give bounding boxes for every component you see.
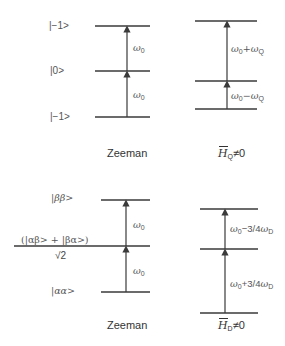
- dipolar-title: HD≠0: [218, 319, 245, 332]
- top-zeeman-levels: [95, 26, 150, 117]
- bottom-zeeman-levels: [14, 200, 150, 292]
- hamiltonian-symbol: H: [218, 147, 228, 160]
- hamiltonian-symbol: H: [218, 319, 228, 332]
- quadrupole-title: HQ≠0: [218, 147, 245, 160]
- state-label-middle: |0>: [50, 66, 64, 76]
- transition-label: ω0−3/4ωD: [230, 224, 273, 237]
- transition-label: ω0: [133, 43, 145, 56]
- state-label-lower: |αα>: [51, 286, 75, 296]
- transition-label: ω0: [133, 266, 145, 279]
- transition-label: ω0: [133, 90, 145, 103]
- state-label-bottom: |−1>: [50, 112, 70, 122]
- state-label-middle-denominator: √2: [55, 250, 66, 261]
- transition-label: ω0−ωQ: [231, 91, 264, 104]
- zeeman-title-top: Zeeman: [107, 147, 147, 159]
- state-label-upper: |ββ>: [51, 193, 73, 203]
- transition-label: ω0: [133, 220, 145, 233]
- transition-label: ω0+ωQ: [231, 44, 264, 57]
- state-label-top: |−1>: [49, 21, 69, 31]
- transition-label: ω0+3/4ωD: [230, 279, 273, 292]
- zeeman-title-bottom: Zeeman: [107, 319, 147, 331]
- state-label-middle-numerator: (|αβ> + |βα>): [21, 234, 89, 245]
